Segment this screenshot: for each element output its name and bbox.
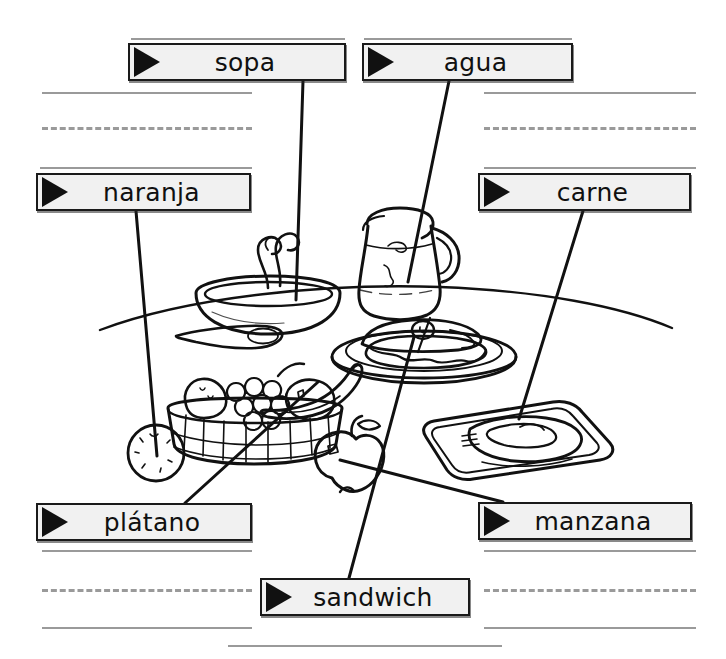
label-box-sopa[interactable]: sopa	[128, 43, 346, 81]
label-box-manzana[interactable]: manzana	[478, 502, 692, 540]
right-triangle-pointer-icon	[480, 175, 510, 209]
label-text-sopa: sopa	[160, 50, 344, 75]
label-box-agua[interactable]: agua	[362, 43, 573, 81]
label-text-platano: plátano	[68, 510, 250, 535]
worksheet-page: sopaaguanaranjacarneplátanomanzanasandwi…	[0, 0, 726, 659]
leader-line-agua	[408, 81, 449, 282]
leader-line-naranja	[136, 211, 157, 456]
label-box-platano[interactable]: plátano	[36, 503, 252, 541]
label-text-sandwich: sandwich	[292, 585, 468, 610]
leader-line-manzana	[340, 460, 503, 502]
label-text-agua: agua	[394, 50, 571, 75]
label-box-carne[interactable]: carne	[478, 173, 691, 211]
meat-on-tray	[424, 401, 613, 479]
soup-bowl	[176, 234, 340, 349]
label-text-naranja: naranja	[68, 180, 249, 205]
label-box-sandwich[interactable]: sandwich	[260, 578, 470, 616]
label-text-carne: carne	[510, 180, 689, 205]
fruit-basket	[168, 364, 362, 465]
label-box-naranja[interactable]: naranja	[36, 173, 251, 211]
right-triangle-pointer-icon	[38, 505, 68, 539]
right-triangle-pointer-icon	[262, 580, 292, 614]
water-pitcher	[359, 208, 459, 320]
meal-illustration	[0, 0, 726, 659]
right-triangle-pointer-icon	[130, 45, 160, 79]
right-triangle-pointer-icon	[480, 504, 510, 538]
sandwich-on-plate	[332, 318, 516, 383]
leader-line-sopa	[296, 81, 303, 300]
leader-line-carne	[519, 211, 583, 419]
right-triangle-pointer-icon	[364, 45, 394, 79]
label-text-manzana: manzana	[510, 509, 690, 534]
right-triangle-pointer-icon	[38, 175, 68, 209]
